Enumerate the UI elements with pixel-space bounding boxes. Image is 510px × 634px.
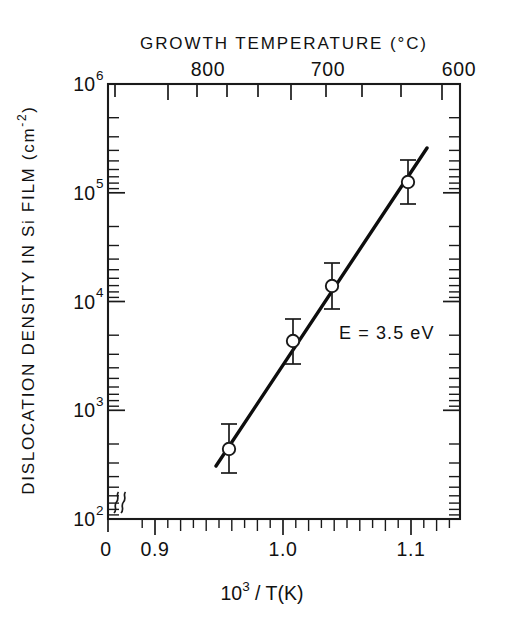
- y-ticklabel-exp-1e2: 2: [96, 503, 104, 518]
- top-axis-title: GROWTH TEMPERATURE (°C): [140, 34, 428, 53]
- chart-figure: GROWTH TEMPERATURE (°C) 800 700 600: [0, 0, 510, 634]
- activation-energy-annotation: E = 3.5 eV: [339, 323, 435, 343]
- x-ticklabel-1.1: 1.1: [397, 538, 426, 560]
- x-axis-title-tail: / T(K): [250, 582, 304, 604]
- y-axis-title-exponent: -2: [15, 113, 29, 127]
- data-marker[interactable]: [402, 176, 414, 188]
- arrhenius-plot-svg: GROWTH TEMPERATURE (°C) 800 700 600: [0, 0, 510, 634]
- y-ticklabel-base-1e2: 10: [73, 508, 95, 530]
- x-ticklabel-0: 0: [100, 538, 111, 560]
- y-axis-title: DISLOCATION DENSITY IN Si FILM (cm-2): [15, 105, 38, 494]
- x-axis-title: 103 / T(K): [220, 579, 303, 605]
- y-ticklabel-base-1e3: 10: [73, 399, 95, 421]
- x-ticklabel-0.9: 0.9: [141, 538, 170, 560]
- data-marker[interactable]: [223, 443, 235, 455]
- top-axis-ticklabel-600: 600: [442, 58, 476, 80]
- y-axis-title-main: DISLOCATION DENSITY IN Si FILM (cm: [19, 127, 38, 495]
- y-ticklabel-exp-1e5: 5: [96, 176, 104, 191]
- y-axis-title-tail: ): [19, 105, 38, 112]
- x-ticklabel-1.0: 1.0: [269, 538, 298, 560]
- y-ticklabel-exp-1e6: 6: [96, 68, 104, 83]
- top-axis-ticklabel-800: 800: [191, 58, 225, 80]
- y-ticklabel-base-1e4: 10: [73, 291, 95, 313]
- data-marker[interactable]: [326, 280, 338, 292]
- y-ticklabel-base-1e5: 10: [73, 182, 95, 204]
- top-axis-ticklabel-700: 700: [311, 58, 345, 80]
- x-axis-title-exponent: 3: [242, 579, 250, 594]
- y-ticklabel-exp-1e4: 4: [96, 285, 104, 300]
- data-marker[interactable]: [287, 335, 299, 347]
- y-ticklabel-exp-1e3: 3: [96, 394, 104, 409]
- x-axis-title-base: 10: [220, 582, 242, 604]
- svg-text:103 / T(K): 103 / T(K): [220, 579, 303, 605]
- svg-text:DISLOCATION DENSITY IN Si FILM: DISLOCATION DENSITY IN Si FILM (cm-2): [15, 105, 38, 494]
- y-ticklabel-base-1e6: 10: [73, 73, 95, 95]
